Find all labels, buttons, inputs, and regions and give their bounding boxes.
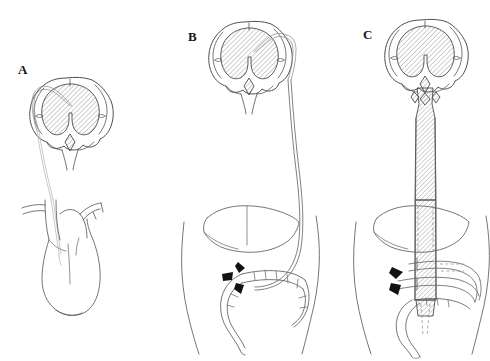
figure-container: A — [0, 0, 490, 361]
panel-b-label: B — [188, 29, 197, 44]
panel-a-label: A — [18, 62, 28, 77]
medical-illustration-svg: A — [0, 0, 490, 361]
panel-c-fluid-column — [415, 88, 436, 316]
panel-c-label: C — [363, 27, 372, 42]
csf-column-lower-c — [416, 300, 435, 316]
